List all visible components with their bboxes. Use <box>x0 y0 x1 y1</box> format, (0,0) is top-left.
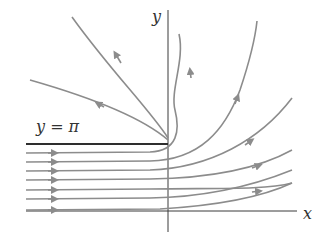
curve-row-6 <box>26 170 292 199</box>
phase-diagram: y x y = π <box>0 0 327 245</box>
curve-upper-left-1 <box>72 17 168 138</box>
curve-fan-2 <box>26 150 292 180</box>
y-equals-pi-label: y = π <box>35 117 80 136</box>
curve-turn-up-2 <box>26 21 257 162</box>
x-axis-label: x <box>303 204 312 223</box>
y-axis-label: y <box>151 7 162 26</box>
